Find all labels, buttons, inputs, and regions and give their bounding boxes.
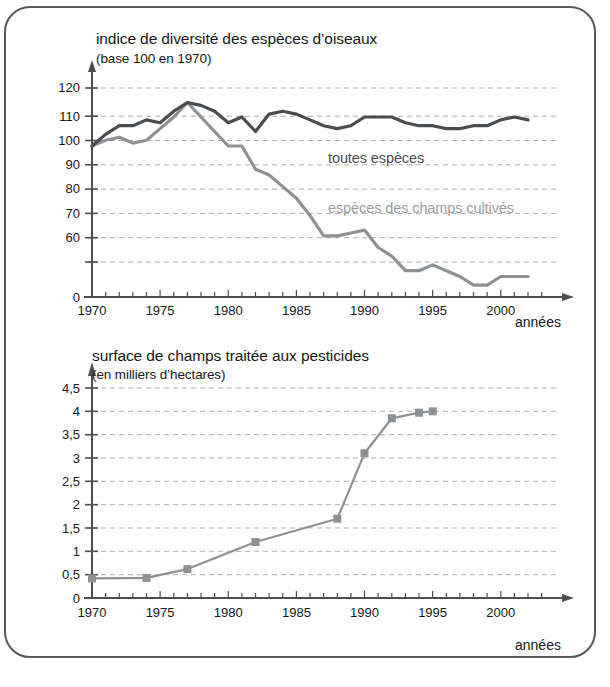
ytick-label: 1,5 <box>62 521 80 536</box>
data-point-marker <box>183 565 191 573</box>
xtick-label: 1995 <box>418 605 447 620</box>
data-point-marker <box>388 414 396 422</box>
xtick-label: 2000 <box>486 605 515 620</box>
series-line-all-species <box>92 103 528 147</box>
series-label-field-species: espèces des champs cultivés <box>328 200 514 216</box>
xtick-label: 1990 <box>350 303 379 318</box>
ytick-label: 3 <box>73 451 80 466</box>
ytick-label: 70 <box>66 206 80 221</box>
xticks-minor-top <box>92 290 542 297</box>
ytick-label: 0 <box>73 591 80 606</box>
ytick-label: 100 <box>58 133 80 148</box>
xtick-label: 1980 <box>214 605 243 620</box>
xtick-label: 1985 <box>282 605 311 620</box>
data-point-marker <box>361 449 369 457</box>
ytick-label: 110 <box>59 109 80 124</box>
data-point-marker <box>252 538 260 546</box>
data-point-marker <box>143 574 151 582</box>
series-line-pesticide <box>92 411 433 578</box>
xticks-minor-bottom <box>92 591 542 598</box>
ytick-label: 2,5 <box>62 474 80 489</box>
xtick-label: 1985 <box>282 303 311 318</box>
ytick-label: 60 <box>66 230 80 245</box>
xtick-label: 1975 <box>146 605 175 620</box>
chart-top-subtitle: (base 100 en 1970) <box>96 51 211 66</box>
series-line-field-species <box>92 103 528 286</box>
xtick-label: 1980 <box>214 303 243 318</box>
data-point-marker <box>415 409 423 417</box>
xtick-label: 1970 <box>78 605 107 620</box>
chart-pesticide-area: surface de champs traitée aux pesticides… <box>0 340 610 660</box>
xtick-label: 2000 <box>486 303 515 318</box>
xtick-label: 1975 <box>146 303 175 318</box>
chart-bottom-title: surface de champs traitée aux pesticides <box>92 347 369 365</box>
chart-bottom-subtitle: (en milliers d’hectares) <box>92 367 225 382</box>
chart-top-title: indice de diversité des espèces d’oiseau… <box>96 30 377 48</box>
data-point-marker <box>429 407 437 415</box>
ytick-label: 120 <box>58 80 80 95</box>
series-markers-pesticide <box>88 407 437 582</box>
xtick-label: 1990 <box>350 605 379 620</box>
ytick-label: 2 <box>73 497 80 512</box>
yaxis-bottom <box>88 362 96 598</box>
xtick-label: 1995 <box>418 303 447 318</box>
data-point-marker <box>333 515 341 523</box>
series-label-all-species: toutes espèces <box>328 150 424 166</box>
xtick-label: 1970 <box>78 303 107 318</box>
ytick-label: 1 <box>73 544 80 559</box>
ytick-label: 3,5 <box>62 427 80 442</box>
chart-top-xaxis-name: années <box>515 314 561 330</box>
gridlines-horizontal <box>92 388 560 575</box>
ytick-label: 90 <box>66 157 80 172</box>
chart-bird-diversity: indice de diversité des espèces d’oiseau… <box>0 0 610 340</box>
chart-bottom-canvas: 4,5 4 3,5 3 2,5 2 1,5 1 0,5 0 <box>0 340 610 660</box>
data-point-marker <box>88 574 96 582</box>
ytick-label: 4 <box>73 404 80 419</box>
chart-top-canvas: 120 110 100 90 80 70 60 0 <box>0 0 610 340</box>
ytick-label: 80 <box>66 181 80 196</box>
ytick-label: 0,5 <box>62 567 80 582</box>
ytick-label: 4,5 <box>62 381 80 396</box>
chart-bottom-xaxis-name: années <box>515 637 561 653</box>
